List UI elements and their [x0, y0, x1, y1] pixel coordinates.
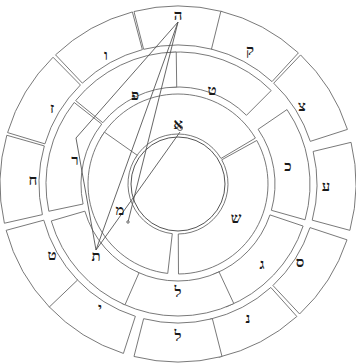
outer-ring-letter: י: [98, 299, 102, 317]
outer-ring-letter: צ: [298, 97, 306, 115]
central-circle: [131, 137, 225, 231]
inner-ring-letter: ש: [231, 209, 242, 227]
outer-ring-letter: ח: [29, 171, 38, 189]
middle-ring-letter: פ: [131, 86, 139, 104]
outer-ring-letter: ו: [104, 46, 108, 64]
outer-ring-letter: ע: [322, 177, 331, 195]
outer-ring-letter: ק: [246, 41, 254, 59]
middle-ring-letter: ל: [173, 283, 181, 301]
outer-ring-letter: ז: [50, 99, 54, 117]
middle-ring-letter: ר: [71, 151, 78, 169]
outer-ring-letter: נ: [246, 309, 251, 327]
middle-ring-letter: ט: [207, 81, 216, 99]
middle-ring-letter: ת: [91, 247, 100, 265]
letter-wheel-diagram: הקצעסנליטחזוטכגלתרפאשמ: [0, 0, 356, 364]
outer-ring-letter: ס: [296, 253, 305, 271]
outer-ring-cell: [312, 142, 356, 230]
outer-ring-cell: [0, 135, 44, 223]
line-endpoint-node: [127, 221, 129, 223]
outer-ring-letter: ט: [47, 246, 56, 264]
outer-ring-letter: ל: [173, 327, 181, 345]
middle-ring-letter: כ: [284, 157, 291, 175]
outer-ring-letter: ה: [174, 6, 183, 24]
middle-ring-letter: ג: [260, 255, 265, 273]
inner-ring-letter: מ: [116, 201, 125, 219]
inner-ring-letter: א: [173, 115, 183, 133]
